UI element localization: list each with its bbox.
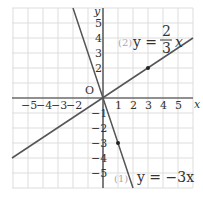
point-1 — [116, 141, 120, 145]
svg-text:3: 3 — [95, 47, 102, 60]
svg-text:4: 4 — [95, 32, 102, 45]
svg-text:−5: −5 — [21, 99, 37, 112]
eq1-equation: y = −3x — [136, 169, 194, 185]
svg-text:−2: −2 — [91, 122, 107, 135]
svg-text:3: 3 — [145, 99, 152, 112]
svg-text:2: 2 — [130, 99, 137, 112]
eq2-frac-den: 3 — [162, 40, 171, 56]
y-axis-label: y — [93, 5, 101, 18]
svg-text:5: 5 — [175, 99, 182, 112]
svg-text:−4: −4 — [36, 99, 52, 112]
eq2-rhs: x — [175, 34, 183, 50]
origin-label: O — [85, 84, 94, 97]
svg-text:−3: −3 — [91, 137, 107, 150]
eq2-number: (2) — [118, 37, 132, 48]
svg-text:4: 4 — [160, 99, 167, 112]
svg-text:1: 1 — [115, 99, 122, 112]
graph: −5−4−3−2123455432−1−2−3−4−5 x y O (2) y … — [0, 0, 203, 197]
point-2 — [146, 66, 150, 70]
eq2-lhs: y = — [132, 34, 157, 50]
eq1-number: (1) — [114, 173, 128, 184]
svg-text:−5: −5 — [91, 167, 107, 180]
svg-text:5: 5 — [95, 17, 102, 30]
svg-text:−1: −1 — [91, 107, 107, 120]
svg-text:−4: −4 — [91, 152, 107, 165]
svg-text:−3: −3 — [51, 99, 67, 112]
svg-text:2: 2 — [95, 62, 102, 75]
eq2-frac-num: 2 — [162, 23, 171, 39]
svg-text:−2: −2 — [66, 99, 82, 112]
x-axis-label: x — [194, 98, 201, 111]
